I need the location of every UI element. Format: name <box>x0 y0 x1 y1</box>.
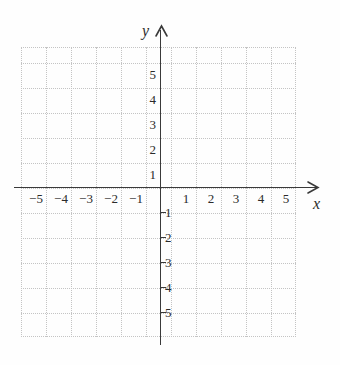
grid-line-vertical <box>295 47 296 337</box>
grid-line-horizontal <box>21 288 296 289</box>
grid-line-vertical <box>71 47 72 337</box>
grid-line-vertical <box>96 47 97 337</box>
arrow-up-icon <box>155 24 168 37</box>
grid-line-vertical <box>246 47 247 337</box>
x-axis-label: x <box>313 196 320 212</box>
y-tick-label: 1 <box>142 168 156 181</box>
grid-line-vertical <box>21 47 22 337</box>
grid-line-horizontal <box>21 188 296 189</box>
grid-line-horizontal <box>21 163 296 164</box>
grid-line-horizontal <box>21 113 296 114</box>
grid-line-vertical <box>221 47 222 337</box>
x-tick-label: 2 <box>203 192 219 205</box>
x-tick-label: 4 <box>253 192 269 205</box>
y-tick-label: 3 <box>165 256 179 269</box>
y-tick-label: 1 <box>165 206 179 219</box>
grid-line-horizontal <box>21 138 296 139</box>
y-tick-label: 2 <box>142 143 156 156</box>
x-tick-label: −2 <box>103 192 119 205</box>
x-tick-label: −4 <box>53 192 69 205</box>
x-axis-line <box>14 187 318 188</box>
coordinate-plane-figure: x y −5 −4 −3 −2 −1 1 2 3 4 5 5 4 3 2 1 1… <box>0 0 340 365</box>
grid-line-vertical <box>271 47 272 337</box>
y-tick-label: 2 <box>165 231 179 244</box>
x-tick-label: 3 <box>228 192 244 205</box>
x-tick-label: −3 <box>78 192 94 205</box>
y-tick-label: 5 <box>142 68 156 81</box>
grid-line-vertical <box>196 47 197 337</box>
x-tick-label: −5 <box>28 192 44 205</box>
y-tick-label: 5 <box>165 306 179 319</box>
grid-line-horizontal <box>21 238 296 239</box>
x-tick-label: 1 <box>178 192 194 205</box>
y-tick-label: 4 <box>165 281 179 294</box>
arrow-right-icon <box>307 181 320 194</box>
grid-line-horizontal <box>21 263 296 264</box>
grid-line-horizontal <box>21 336 296 337</box>
x-tick-label: 5 <box>278 192 294 205</box>
grid-line-vertical <box>46 47 47 337</box>
grid-line-vertical <box>146 47 147 337</box>
y-tick-label: 4 <box>142 93 156 106</box>
grid-line-horizontal <box>21 63 296 64</box>
grid-line-horizontal <box>21 47 296 48</box>
grid-line-horizontal <box>21 213 296 214</box>
x-tick-label: −1 <box>128 192 144 205</box>
y-axis-label: y <box>142 23 149 39</box>
grid-line-horizontal <box>21 88 296 89</box>
y-tick-label: 3 <box>142 118 156 131</box>
y-axis-line <box>160 30 161 345</box>
grid-line-vertical <box>121 47 122 337</box>
grid-line-horizontal <box>21 313 296 314</box>
